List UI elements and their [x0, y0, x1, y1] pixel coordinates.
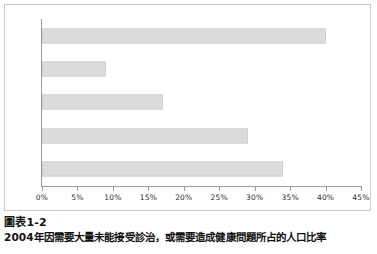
- x-tick-label: 0%: [36, 193, 48, 202]
- bar-row: 英國: [5, 52, 372, 85]
- x-axis-line: [41, 186, 362, 187]
- caption-title: 圖表1-2: [4, 216, 371, 229]
- bar-英國[interactable]: [42, 61, 106, 76]
- caption-subtitle: 2004年因需要大量未能接受診治，或需要造成健康問題所占的人口比率: [4, 231, 371, 244]
- bar-紐西蘭[interactable]: [42, 162, 283, 177]
- x-tick-label: 5%: [71, 193, 83, 202]
- tick-mark: [77, 186, 78, 191]
- tick-mark: [148, 186, 149, 191]
- bar-row: 美國: [5, 19, 372, 52]
- x-tick-label: 35%: [281, 193, 298, 202]
- bar-row: 紐西蘭: [5, 153, 372, 186]
- x-tick-label: 20%: [175, 193, 192, 202]
- tick-mark: [184, 186, 185, 191]
- tick-mark: [219, 186, 220, 191]
- x-tick-label: 30%: [246, 193, 263, 202]
- figure-frame: 美國英國加拿大澳洲紐西蘭 0%5%10%15%20%25%30%35%40%45…: [4, 4, 371, 211]
- bar-澳洲[interactable]: [42, 128, 248, 143]
- bar-美國[interactable]: [42, 28, 326, 43]
- bar-chart-plot-area: 美國英國加拿大澳洲紐西蘭 0%5%10%15%20%25%30%35%40%45…: [5, 5, 372, 212]
- x-tick-label: 25%: [211, 193, 228, 202]
- tick-mark: [113, 186, 114, 191]
- x-tick-label: 15%: [140, 193, 157, 202]
- tick-mark: [255, 186, 256, 191]
- tick-mark: [326, 186, 327, 191]
- x-tick-label: 40%: [317, 193, 334, 202]
- bar-加拿大[interactable]: [42, 95, 163, 110]
- x-tick-label: 10%: [104, 193, 121, 202]
- x-tick-label: 45%: [352, 193, 369, 202]
- figure-caption: 圖表1-2 2004年因需要大量未能接受診治，或需要造成健康問題所占的人口比率: [4, 216, 371, 244]
- tick-mark: [42, 186, 43, 191]
- tick-mark: [290, 186, 291, 191]
- bar-row: 加拿大: [5, 86, 372, 119]
- tick-mark: [361, 186, 362, 191]
- bar-row: 澳洲: [5, 119, 372, 152]
